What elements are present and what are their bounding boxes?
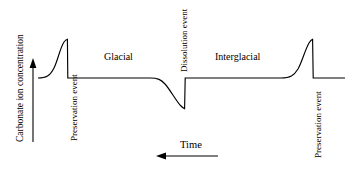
y-axis-label: Carbonate ion concentration	[16, 34, 26, 142]
annotation-preservation-event-1: Preservation event	[70, 74, 79, 141]
annotation-glacial: Glacial	[104, 52, 133, 62]
carbonate-ion-concentration-figure: Carbonate ion concentration Preservation…	[0, 0, 349, 173]
x-axis-label: Time	[180, 140, 202, 151]
annotation-dissolution-event: Dissolution event	[180, 9, 189, 72]
y-axis-arrow	[30, 58, 37, 142]
annotation-preservation-event-2: Preservation event	[314, 91, 323, 158]
plot-area	[0, 0, 349, 173]
annotation-interglacial: Interglacial	[215, 52, 260, 62]
concentration-curve	[38, 39, 345, 108]
time-axis-arrow	[156, 152, 218, 159]
